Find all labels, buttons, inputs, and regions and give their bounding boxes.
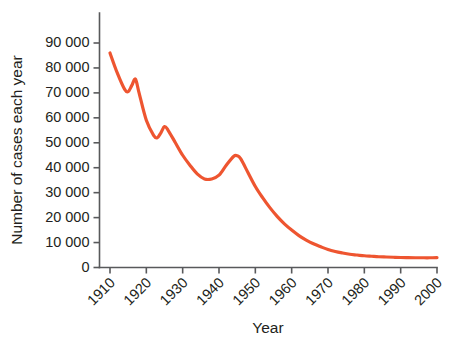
y-axis-title: Number of cases each year	[8, 55, 25, 245]
x-tick-label: 1970	[302, 274, 336, 308]
y-tick-label: 90 000	[45, 34, 89, 50]
x-axis-ticks	[110, 268, 437, 274]
x-tick-label: 1910	[84, 274, 118, 308]
y-tick-label: 30 000	[45, 184, 89, 200]
chart-container: 010 00020 00030 00040 00050 00060 00070 …	[0, 0, 461, 347]
line-chart: 010 00020 00030 00040 00050 00060 00070 …	[0, 0, 461, 347]
y-tick-label: 10 000	[45, 234, 89, 250]
y-tick-label: 20 000	[45, 209, 89, 225]
data-series-line	[110, 53, 437, 258]
y-tick-label: 0	[81, 259, 89, 275]
x-axis-tick-labels: 1910192019301940195019601970198019902000	[84, 274, 445, 308]
x-tick-label: 1980	[338, 274, 372, 308]
x-tick-label: 1950	[229, 274, 263, 308]
x-tick-label: 1920	[120, 274, 154, 308]
y-tick-label: 60 000	[45, 109, 89, 125]
x-tick-label: 1930	[157, 274, 191, 308]
x-tick-label: 1940	[193, 274, 227, 308]
y-axis-tick-labels: 010 00020 00030 00040 00050 00060 00070 …	[45, 34, 89, 275]
y-tick-label: 40 000	[45, 159, 89, 175]
x-axis-title: Year	[252, 319, 283, 336]
x-tick-label: 1990	[375, 274, 409, 308]
x-tick-label: 2000	[411, 274, 445, 308]
y-tick-label: 80 000	[45, 59, 89, 75]
y-axis-ticks	[94, 43, 100, 268]
y-tick-label: 50 000	[45, 134, 89, 150]
y-tick-label: 70 000	[45, 84, 89, 100]
x-tick-label: 1960	[266, 274, 300, 308]
